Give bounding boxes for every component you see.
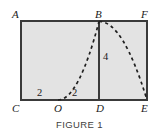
vertex-label-b: B xyxy=(95,9,102,20)
vertex-label-d: D xyxy=(96,103,104,114)
figure-container: A B F C O D E 2 2 4 FIGURE 1 xyxy=(0,0,159,140)
vertex-label-c: C xyxy=(12,103,19,114)
measure-label-co: 2 xyxy=(37,88,42,99)
figure-caption: FIGURE 1 xyxy=(0,119,159,130)
measure-label-od: 2 xyxy=(72,88,77,99)
vertex-label-f: F xyxy=(141,9,148,20)
vertex-label-a: A xyxy=(12,9,19,20)
vertex-label-o: O xyxy=(54,103,62,114)
measure-label-bd: 4 xyxy=(103,52,108,63)
vertex-label-e: E xyxy=(141,103,148,114)
